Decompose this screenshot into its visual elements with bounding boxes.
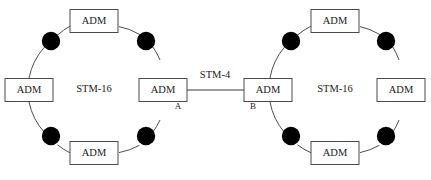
right-ring-regen-ne[interactable] (373, 31, 399, 52)
left-ring-regen-nw[interactable] (38, 31, 64, 52)
left-ring-arc-segment (119, 27, 140, 35)
right-ring-adm-top-label: ADM (323, 15, 348, 26)
right-ring-center-label: STM-16 (317, 83, 353, 94)
right-ring-adm-left[interactable]: ADM (244, 79, 292, 102)
left-ring-arc-segment (153, 47, 160, 60)
right-ring-adm-right-label: ADM (389, 84, 414, 95)
interconnect-group: STM-4 (187, 69, 244, 90)
endpoint-label-b: B (250, 101, 256, 111)
left-ring-group: STM-16 ADM ADM ADM A ADM (5, 10, 187, 165)
left-ring-adm-bottom[interactable]: ADM (70, 142, 118, 165)
left-ring-adm-top-label: ADM (82, 15, 107, 26)
stm4-link-label: STM-4 (200, 69, 231, 80)
right-ring-arc-segment (270, 47, 284, 78)
left-ring-arc-segment (58, 145, 71, 153)
left-ring-adm-top[interactable]: ADM (70, 10, 118, 33)
left-ring-adm-left-label: ADM (17, 84, 42, 95)
right-ring-arc-segment (298, 26, 311, 35)
left-ring-arc-segment (29, 47, 44, 78)
right-ring-regen-nw[interactable] (278, 31, 304, 52)
left-ring-arc-segment (29, 102, 45, 133)
diagram-canvas: STM-16 ADM ADM ADM A ADM (0, 0, 431, 180)
left-ring-adm-left[interactable]: ADM (5, 79, 53, 102)
left-ring-center-label: STM-16 (76, 83, 112, 94)
right-ring-adm-right[interactable]: ADM (377, 79, 425, 102)
left-ring-adm-right[interactable]: ADM (139, 79, 187, 102)
right-ring-arc-segment (270, 102, 285, 133)
left-ring-regen-sw[interactable] (38, 126, 64, 147)
left-ring-adm-right-label: ADM (151, 84, 176, 95)
right-ring-adm-left-label: ADM (256, 84, 281, 95)
right-ring-arc-segment (360, 145, 379, 152)
right-ring-arc-segment (298, 145, 312, 153)
right-ring-adm-top[interactable]: ADM (311, 10, 359, 33)
endpoint-label-a: A (175, 101, 182, 111)
network-topology-diagram: STM-16 ADM ADM ADM A ADM (0, 0, 431, 180)
left-ring-arc-segment (119, 145, 139, 152)
left-ring-arc-segment (58, 26, 70, 35)
right-ring-arc-segment (360, 27, 380, 35)
left-ring-adm-bottom-label: ADM (82, 147, 107, 158)
left-ring-regen-ne[interactable] (133, 31, 159, 52)
right-ring-adm-bottom[interactable]: ADM (311, 142, 359, 165)
right-ring-adm-bottom-label: ADM (323, 147, 348, 158)
right-ring-arc-segment (393, 47, 399, 60)
right-ring-group: STM-16 ADM ADM B ADM ADM (244, 10, 425, 165)
